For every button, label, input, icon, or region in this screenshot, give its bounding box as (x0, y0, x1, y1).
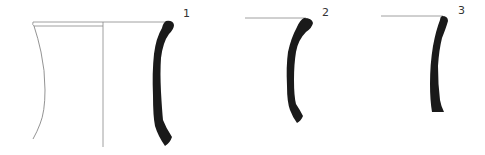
profile-1-label: 1 (183, 7, 190, 20)
profile-1-section (153, 21, 174, 146)
profile-1-rim-inner-line (33, 22, 103, 26)
profile-2: 2 (245, 6, 329, 123)
pottery-profiles-figure: 1 2 3 (0, 0, 485, 155)
profile-1-exterior-outline (33, 26, 45, 139)
profile-3-label: 3 (458, 4, 465, 17)
profile-2-label: 2 (322, 6, 329, 19)
profile-2-section (287, 18, 313, 123)
profile-3: 3 (381, 4, 465, 112)
profile-1: 1 (33, 7, 190, 147)
profile-3-section (430, 16, 448, 112)
